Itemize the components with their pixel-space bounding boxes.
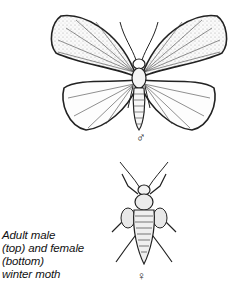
caption-line: (bottom) (2, 255, 112, 268)
caption-line: winter moth (2, 268, 112, 281)
figure-caption: Adult male (top) and female (bottom) win… (2, 229, 112, 281)
caption-line: Adult male (2, 229, 112, 242)
caption-line: (top) and female (2, 242, 112, 255)
male-symbol: ♂ (136, 131, 146, 144)
female-symbol: ♀ (137, 270, 146, 282)
female-moth-illustration (108, 160, 180, 272)
male-moth-illustration (46, 8, 232, 133)
figure: ♂ ♀ Adult male (top) and female (bott (0, 0, 233, 285)
